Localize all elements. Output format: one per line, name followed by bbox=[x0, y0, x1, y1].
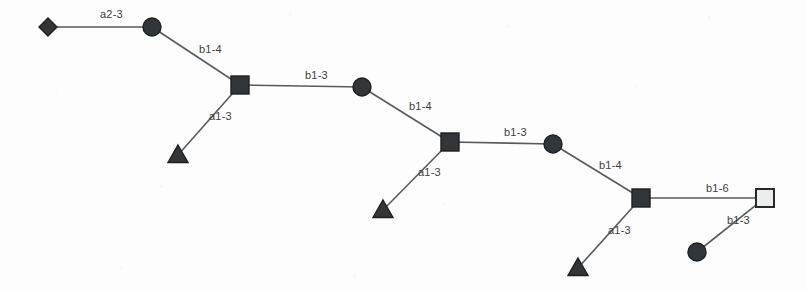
edge-circle1-square1 bbox=[152, 27, 240, 85]
edge-circle3-square3 bbox=[553, 144, 641, 198]
circle-node-2 bbox=[353, 78, 371, 96]
glycan-structure-svg: a2-3b1-4a1-3b1-3b1-4a1-3b1-3b1-4a1-3b1-6… bbox=[0, 0, 806, 291]
edge-square2-circle3-label: b1-3 bbox=[504, 126, 527, 138]
edge-circle3-square3-label: b1-4 bbox=[599, 159, 622, 171]
edge-circle2-square2-label: b1-4 bbox=[409, 100, 432, 112]
edge-square2-triangle2-label: a1-3 bbox=[418, 166, 441, 178]
nodes-layer bbox=[39, 18, 774, 276]
diamond-node-1 bbox=[39, 18, 57, 36]
edge-square4-circle4-label: b1-3 bbox=[727, 214, 750, 226]
edge-square1-circle2 bbox=[240, 85, 362, 87]
edge-square1-triangle1-label: a1-3 bbox=[209, 110, 232, 122]
glycan-diagram-canvas: a2-3b1-4a1-3b1-3b1-4a1-3b1-3b1-4a1-3b1-6… bbox=[0, 0, 806, 291]
circle-node-3 bbox=[544, 135, 562, 153]
edge-circle2-square2 bbox=[362, 87, 450, 142]
edges-layer bbox=[48, 27, 765, 268]
square-node-1 bbox=[231, 76, 249, 94]
edge-square3-triangle3-label: a1-3 bbox=[608, 224, 631, 236]
square-node-4 bbox=[756, 189, 774, 207]
circle-node-1 bbox=[143, 18, 161, 36]
edge-circle1-square1-label: b1-4 bbox=[199, 43, 222, 55]
circle-node-4 bbox=[688, 243, 706, 261]
edge-square3-square4-label: b1-6 bbox=[706, 182, 729, 194]
edge-diamond1-circle1-label: a2-3 bbox=[100, 8, 123, 20]
edge-square2-circle3 bbox=[450, 142, 553, 144]
edge-square1-circle2-label: b1-3 bbox=[305, 69, 328, 81]
square-node-3 bbox=[632, 189, 650, 207]
edge-labels-layer: a2-3b1-4a1-3b1-3b1-4a1-3b1-3b1-4a1-3b1-6… bbox=[100, 8, 750, 236]
square-node-2 bbox=[441, 133, 459, 151]
